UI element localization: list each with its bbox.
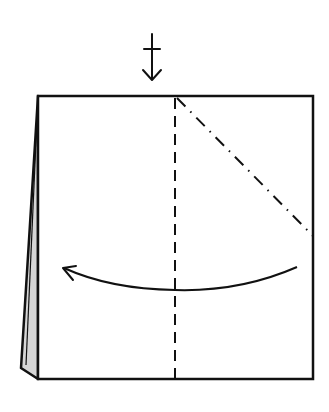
diagram-canvas [0, 0, 329, 412]
push-arrow-icon [143, 34, 161, 80]
origami-diagram [0, 0, 329, 412]
back-flap [21, 96, 38, 379]
